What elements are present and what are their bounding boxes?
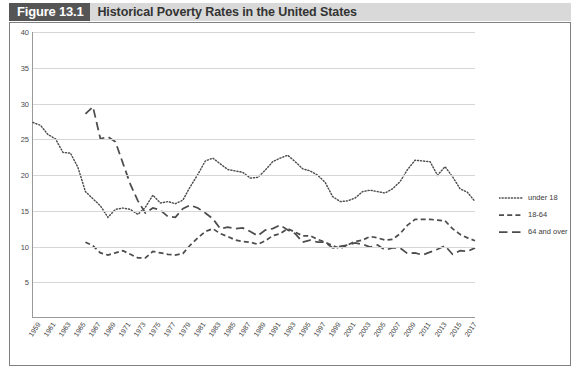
y-axis-tick-label: 15	[21, 206, 29, 215]
y-axis-tick-label: 10	[21, 242, 29, 251]
plot-area: 403530252015105	[32, 32, 475, 318]
figure-number-badge: Figure 13.1	[9, 3, 90, 21]
legend-item-label: 64 and over	[528, 227, 568, 236]
x-axis-tick-label: 1999	[328, 321, 343, 338]
y-axis-tick-label: 5	[25, 278, 29, 287]
dotted-line-icon	[499, 194, 523, 202]
y-gridline: 5	[33, 282, 475, 283]
y-gridline: 20	[33, 175, 475, 176]
series-line-18-64	[85, 219, 475, 257]
long-dashed-line-icon	[499, 228, 523, 236]
legend-item-18-64[interactable]: 18-64	[499, 206, 579, 223]
x-axis-tick-label: 1965	[72, 321, 87, 338]
y-axis-tick-label: 40	[21, 28, 29, 37]
x-axis-tick-label: 2013	[433, 321, 448, 338]
y-gridline: 10	[33, 247, 475, 248]
x-axis-tick-label: 1983	[207, 321, 222, 338]
figure-container: Figure 13.1 Historical Poverty Rates in …	[0, 0, 580, 372]
series-line-64-and-over	[85, 107, 475, 255]
x-axis-tick-label: 1977	[162, 321, 177, 338]
y-axis-tick-label: 25	[21, 135, 29, 144]
y-axis-tick-label: 30	[21, 99, 29, 108]
chart-frame: 403530252015105 195919611963196519671969…	[9, 22, 571, 366]
legend-item-under-18[interactable]: under 18	[499, 189, 579, 206]
x-axis-tick-label: 2009	[403, 321, 418, 338]
x-axis-tick-label: 2017	[463, 321, 478, 338]
x-axis-tick-labels: 1959196119631965196719691971197319751977…	[32, 319, 475, 365]
y-axis-tick-label: 35	[21, 63, 29, 72]
x-axis-tick-label: 1975	[147, 321, 162, 338]
y-axis-tick-label: 20	[21, 171, 29, 180]
y-gridline: 25	[33, 139, 475, 140]
y-gridline: 30	[33, 104, 475, 105]
x-axis-tick-label: 1981	[192, 321, 207, 338]
x-axis-tick-label: 1987	[237, 321, 252, 338]
x-axis-tick-label: 2005	[373, 321, 388, 338]
x-axis-tick-label: 1959	[27, 321, 42, 338]
chart-legend: under 1818-6464 and over	[499, 189, 579, 240]
x-axis-tick-label: 2003	[358, 321, 373, 338]
x-axis-tick-label: 2007	[388, 321, 403, 338]
x-axis-tick-label: 1971	[117, 321, 132, 338]
x-axis-tick-label: 2015	[448, 321, 463, 338]
x-axis-tick-label: 1995	[298, 321, 313, 338]
y-gridline: 35	[33, 68, 475, 69]
x-axis-tick-label: 1967	[87, 321, 102, 338]
x-axis-tick-label: 2011	[418, 321, 432, 337]
x-axis-tick-label: 1989	[253, 321, 268, 338]
figure-title-bar: Figure 13.1 Historical Poverty Rates in …	[9, 3, 571, 21]
legend-item-label: under 18	[528, 193, 558, 202]
x-axis-tick-label: 1961	[42, 321, 57, 338]
x-axis-tick-label: 1979	[177, 321, 192, 338]
x-axis-tick-label: 1973	[132, 321, 147, 338]
y-gridline: 15	[33, 211, 475, 212]
x-axis-tick-label: 1993	[283, 321, 298, 338]
y-gridline: 40	[33, 32, 475, 33]
x-axis-tick-label: 1997	[313, 321, 328, 338]
x-axis-tick-label: 1963	[57, 321, 72, 338]
legend-item-label: 18-64	[528, 210, 547, 219]
figure-title-text: Historical Poverty Rates in the United S…	[97, 5, 356, 19]
legend-item-64-and-over[interactable]: 64 and over	[499, 223, 579, 240]
x-axis-tick-label: 1985	[222, 321, 237, 338]
x-axis-tick-label: 1969	[102, 321, 117, 338]
x-axis-tick-label: 1991	[268, 321, 283, 338]
dashed-line-icon	[499, 211, 523, 219]
x-axis-tick-label: 2001	[343, 321, 358, 338]
